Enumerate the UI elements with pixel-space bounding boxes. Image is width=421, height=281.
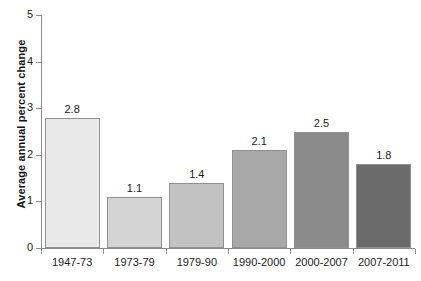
bar[interactable] — [294, 132, 349, 249]
bar-value-label: 1.8 — [356, 149, 411, 161]
y-axis-tick-label: 1 — [3, 195, 33, 206]
x-axis-category-label: 1973-79 — [103, 256, 165, 269]
x-axis-tick — [41, 249, 42, 254]
bar-value-label: 2.8 — [45, 103, 100, 115]
y-axis-tick-label-wrap: 5 — [0, 9, 33, 20]
bar[interactable] — [356, 164, 411, 248]
y-axis-tick-label: 2 — [3, 149, 33, 160]
bar[interactable] — [107, 197, 162, 248]
x-axis-category-label: 1990-2000 — [228, 256, 290, 269]
bar-value-label: 2.5 — [294, 117, 349, 129]
y-axis-tick-label: 5 — [3, 9, 33, 20]
bar[interactable] — [45, 118, 100, 248]
x-axis-tick — [353, 249, 354, 254]
x-axis-tick — [290, 249, 291, 254]
y-axis-tick-label: 0 — [3, 242, 33, 253]
x-axis-category-label: 2000-2007 — [290, 256, 352, 269]
y-axis-tick-label: 3 — [3, 102, 33, 113]
y-axis-tick-label-wrap: 0 — [0, 242, 33, 253]
x-axis-tick — [228, 249, 229, 254]
y-axis-tick-label-wrap: 2 — [0, 149, 33, 160]
y-axis-tick-label: 4 — [3, 56, 33, 67]
x-axis-line — [41, 248, 415, 249]
x-axis-tick — [103, 249, 104, 254]
y-axis-tick-label-wrap: 1 — [0, 195, 33, 206]
bar-value-label: 1.1 — [107, 182, 162, 194]
x-axis-category-label: 1979-90 — [166, 256, 228, 269]
bar-value-label: 2.1 — [232, 135, 287, 147]
bar-value-label: 1.4 — [169, 168, 224, 180]
x-axis-tick — [166, 249, 167, 254]
y-axis-tick-label-wrap: 4 — [0, 56, 33, 67]
y-axis-line — [41, 15, 42, 249]
x-axis-category-label: 1947-73 — [41, 256, 103, 269]
bar[interactable] — [232, 150, 287, 248]
y-axis-tick-label-wrap: 3 — [0, 102, 33, 113]
bar-chart: Average annual percent change 012345 2.8… — [0, 0, 421, 281]
plot-area: 012345 2.81.11.42.12.51.8 1947-731973-79… — [0, 0, 421, 281]
x-axis-tick — [415, 249, 416, 254]
bar[interactable] — [169, 183, 224, 248]
x-axis-category-label: 2007-2011 — [353, 256, 415, 269]
